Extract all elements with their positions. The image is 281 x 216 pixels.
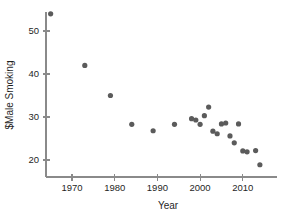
data-point: [253, 148, 258, 153]
y-tick-label: 20: [28, 154, 39, 165]
data-point: [236, 121, 241, 126]
x-axis-ticks: 19701980199020002010: [61, 174, 253, 194]
data-point: [193, 117, 198, 122]
data-point: [48, 11, 53, 16]
plot-canvas: 20304050 19701980199020002010 Year $Male…: [0, 0, 281, 216]
scatter-plot-figure: 20304050 19701980199020002010 Year $Male…: [0, 0, 281, 216]
data-point: [172, 122, 177, 127]
data-point: [257, 162, 262, 167]
x-tick-label: 1970: [61, 182, 82, 193]
x-tick-label: 2000: [190, 182, 211, 193]
y-tick-label: 40: [28, 68, 39, 79]
data-point: [198, 122, 203, 127]
x-tick-label: 1980: [104, 182, 125, 193]
data-point: [215, 131, 220, 136]
data-point: [151, 128, 156, 133]
y-axis-title: $Male Smoking: [4, 61, 15, 130]
y-tick-label: 30: [28, 111, 39, 122]
x-tick-label: 2010: [232, 182, 253, 193]
y-axis-group: 20304050: [28, 12, 49, 177]
data-points-layer: [48, 11, 262, 167]
data-point: [108, 93, 113, 98]
data-point: [232, 140, 237, 145]
data-point: [202, 113, 207, 118]
data-point: [206, 105, 211, 110]
data-point: [227, 133, 232, 138]
data-point: [82, 63, 87, 68]
x-axis-group: 19701980199020002010: [46, 174, 277, 194]
data-point: [223, 120, 228, 125]
y-tick-label: 50: [28, 25, 39, 36]
data-point: [244, 149, 249, 154]
x-axis-title: Year: [158, 200, 179, 211]
data-point: [129, 122, 134, 127]
x-tick-label: 1990: [147, 182, 168, 193]
